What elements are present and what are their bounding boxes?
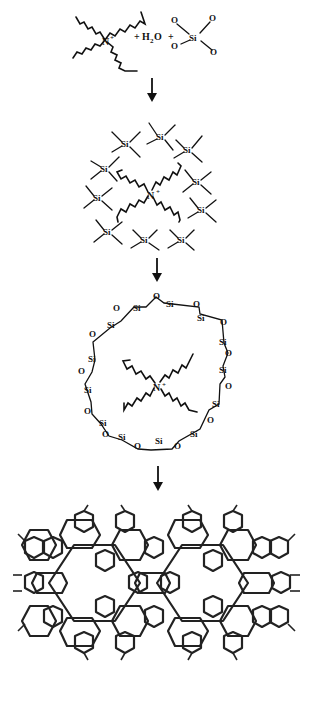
svg-text:O: O [225, 381, 232, 391]
svg-text:Si: Si [107, 320, 115, 330]
svg-text:Si: Si [197, 313, 205, 323]
svg-text:Si: Si [133, 303, 141, 313]
svg-text:Si: Si [140, 235, 148, 245]
svg-text:O: O [102, 429, 109, 439]
si-unit: Si [147, 123, 175, 150]
svg-text:Si: Si [100, 164, 108, 174]
svg-text:Si: Si [93, 193, 101, 203]
svg-text:Si: Si [118, 432, 126, 442]
svg-text:N: N [153, 382, 161, 393]
si-unit: Si [112, 132, 140, 157]
si-unit: Si [94, 220, 122, 244]
svg-text:+: + [162, 381, 166, 389]
reaction-arrow [147, 78, 157, 102]
si-unit: Si [174, 136, 202, 162]
cation-charge: + [110, 34, 114, 42]
svg-text:Si: Si [192, 177, 200, 187]
svg-text:O: O [207, 415, 214, 425]
svg-text:O: O [171, 15, 178, 25]
reaction-arrow [152, 258, 162, 282]
si-unit: Si [84, 186, 112, 210]
svg-text:Si: Si [88, 354, 96, 364]
svg-text:Si: Si [183, 145, 191, 155]
svg-text:O: O [113, 303, 120, 313]
svg-text:Si: Si [197, 205, 205, 215]
svg-text:O: O [154, 31, 162, 42]
silicate-tetrahedron: O O O O Si [171, 13, 217, 57]
svg-text:Si: Si [84, 385, 92, 395]
reaction-arrow [153, 466, 163, 491]
svg-text:O: O [209, 13, 216, 23]
svg-text:O: O [84, 406, 91, 416]
svg-text:O: O [153, 291, 160, 301]
svg-text:O: O [174, 441, 181, 451]
plus-sign: + [134, 31, 140, 42]
svg-text:Si: Si [219, 337, 227, 347]
svg-text:N: N [147, 190, 155, 201]
svg-text:O: O [220, 317, 227, 327]
cation-n-label: N [102, 36, 110, 47]
si-unit: Si [131, 230, 159, 250]
si-unit: Si [91, 157, 119, 181]
svg-text:+: + [156, 188, 160, 196]
svg-text:Si: Si [166, 299, 174, 309]
svg-text:O: O [225, 348, 232, 358]
svg-text:Si: Si [189, 33, 197, 43]
svg-text:Si: Si [219, 365, 227, 375]
svg-text:O: O [210, 47, 217, 57]
svg-text:H: H [142, 31, 150, 42]
svg-text:Si: Si [103, 227, 111, 237]
svg-text:Si: Si [99, 418, 107, 428]
silicate-ring: O Si O Si O Si O Si O Si O Si O Si O Si … [78, 291, 232, 451]
svg-text:Si: Si [177, 235, 185, 245]
si-unit: Si [183, 170, 211, 194]
svg-text:O: O [193, 299, 200, 309]
reaction-scheme: N + + H 2 O + O O O O Si N + Si [0, 0, 317, 707]
svg-text:Si: Si [155, 436, 163, 446]
svg-text:O: O [89, 329, 96, 339]
si-unit: Si [188, 198, 216, 222]
svg-text:O: O [78, 366, 85, 376]
si-unit: Si [168, 230, 194, 250]
water-formula: H 2 O [142, 31, 162, 45]
svg-text:Si: Si [156, 132, 164, 142]
svg-text:O: O [134, 441, 141, 451]
templated-silicate-cluster: N + Si Si Si Si Si [84, 123, 216, 250]
svg-text:Si: Si [212, 399, 220, 409]
svg-text:Si: Si [190, 429, 198, 439]
svg-text:Si: Si [121, 139, 129, 149]
zeolite-framework [13, 505, 300, 660]
svg-text:O: O [171, 41, 178, 51]
